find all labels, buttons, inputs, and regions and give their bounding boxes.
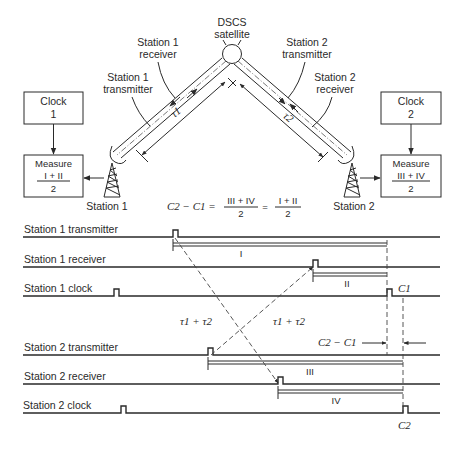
two-way-satellite-time-transfer-diagram: DSCS satellite τ1 τ2 Station 1 rece (0, 0, 464, 453)
svg-text:I + II: I + II (279, 195, 298, 206)
row-label-s1-clock: Station 1 clock (24, 282, 93, 294)
measure1-box: Measure I + II 2 (24, 155, 83, 197)
antenna-dish-icon (338, 146, 354, 164)
svg-text:2: 2 (51, 183, 56, 194)
station1-label: Station 1 (86, 200, 128, 212)
tower-icon (344, 163, 360, 197)
measure2-box: Measure III + IV 2 (381, 155, 441, 197)
offset-label: C2 − C1 (318, 336, 357, 348)
svg-text:Clock: Clock (40, 95, 67, 107)
propagation-s2-to-s1 (211, 267, 313, 355)
satellite-label-line1: DSCS (217, 16, 246, 28)
svg-text:2: 2 (408, 183, 413, 194)
satellite-icon (223, 45, 242, 64)
svg-text:IV: IV (332, 395, 342, 406)
station2-label: Station 2 (333, 200, 375, 212)
svg-text:receiver: receiver (316, 83, 354, 95)
interval-I: I (173, 239, 387, 259)
offset-indicator: C2 − C1 (318, 336, 426, 348)
row-label-s1-receiver: Station 1 receiver (24, 253, 106, 265)
c2-label: C2 (398, 419, 411, 431)
equation-lhs: C2 − C1 = (167, 200, 216, 212)
station2-ground: Clock 2 Measure III + IV 2 Station 2 (333, 92, 441, 212)
station1-ground: Clock 1 Measure I + II 2 Station 1 (24, 92, 128, 212)
svg-text:2: 2 (238, 208, 243, 219)
svg-text:transmitter: transmitter (103, 83, 153, 95)
svg-text:Station 1: Station 1 (137, 36, 179, 48)
svg-text:III: III (306, 366, 314, 377)
satellite: DSCS satellite (214, 16, 250, 64)
svg-text:Station 2: Station 2 (314, 71, 356, 83)
svg-text:III + IV: III + IV (397, 170, 425, 181)
timing-diagram: Station 1 transmitter Station 1 receiver… (23, 223, 440, 431)
antenna-dish-icon (110, 146, 126, 164)
station1-transmitter-callout: Station 1 transmitter (103, 71, 153, 126)
row-label-s2-transmitter: Station 2 transmitter (24, 341, 118, 353)
svg-text:=: = (262, 201, 268, 212)
row-label-s2-clock: Station 2 clock (23, 399, 92, 411)
svg-text:Clock: Clock (398, 95, 425, 107)
offset-equation: C2 − C1 = III + IV 2 = I + II 2 (167, 195, 301, 219)
interval-III: III (208, 357, 403, 377)
svg-text:2: 2 (408, 108, 414, 120)
tower-icon (104, 163, 120, 197)
satellite-label-line2: satellite (214, 28, 250, 40)
delay-label-left: τ1 + τ2 (180, 315, 212, 327)
delay-label-right: τ1 + τ2 (273, 315, 305, 327)
svg-text:Station 1: Station 1 (107, 71, 149, 83)
svg-text:2: 2 (285, 208, 290, 219)
clock1-box: Clock 1 (24, 92, 83, 124)
station2-receiver-callout: Station 2 receiver (312, 71, 356, 127)
interval-II: II (313, 269, 387, 289)
interval-IV: IV (278, 386, 403, 406)
svg-text:II: II (344, 278, 349, 289)
svg-text:transmitter: transmitter (282, 48, 332, 60)
clock2-box: Clock 2 (381, 92, 441, 124)
row-label-s2-receiver: Station 2 receiver (24, 370, 106, 382)
svg-text:I: I (240, 248, 243, 259)
svg-text:Measure: Measure (393, 158, 430, 169)
svg-text:receiver: receiver (139, 48, 177, 60)
row-label-s1-transmitter: Station 1 transmitter (24, 223, 118, 235)
svg-text:Measure: Measure (35, 158, 72, 169)
c1-label: C1 (398, 282, 411, 294)
svg-text:I + II: I + II (44, 170, 63, 181)
svg-text:Station 2: Station 2 (286, 36, 328, 48)
svg-text:1: 1 (51, 108, 57, 120)
svg-text:III + IV: III + IV (227, 195, 255, 206)
